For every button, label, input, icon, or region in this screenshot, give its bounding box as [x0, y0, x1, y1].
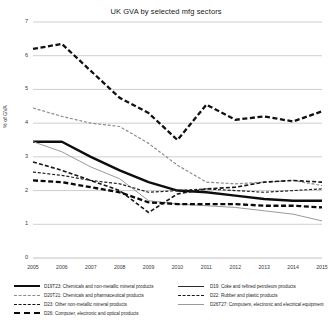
- y-tick-label: 7: [14, 18, 28, 24]
- series-line-d19: [33, 44, 322, 140]
- y-tick-label: 0: [14, 254, 28, 260]
- legend-label: D19: Coke and refined petroleum products: [210, 282, 296, 291]
- x-tick-label: 2008: [105, 264, 135, 270]
- legend-label: D20T21: Chemicals and pharmaceutical pro…: [44, 291, 144, 300]
- legend-item[interactable]: D19: Coke and refined petroleum products: [178, 282, 332, 291]
- y-tick-label: 1: [14, 220, 28, 226]
- y-tick-label: 4: [14, 119, 28, 125]
- legend-label: D23: Other non-metallic mineral products: [44, 300, 127, 309]
- series-lines: [33, 44, 322, 221]
- legend-label: D26T27: Computers, electronic and electr…: [210, 300, 324, 309]
- y-tick-label: 5: [14, 85, 28, 91]
- x-tick-label: 2015: [307, 264, 332, 270]
- x-tick-label: 2011: [191, 264, 221, 270]
- legend-item[interactable]: D26: Computer, electronic and optical pr…: [14, 309, 174, 318]
- series-line-d19t23: [33, 142, 322, 201]
- legend-swatch-icon: [178, 304, 204, 309]
- legend-item[interactable]: D23: Other non-metallic mineral products: [14, 300, 174, 309]
- x-tick-label: 2007: [76, 264, 106, 270]
- x-tick-label: 2012: [220, 264, 250, 270]
- legend-item[interactable]: D22: Rubber and plastic products: [178, 291, 332, 300]
- legend-item[interactable]: D19T23: Chemicals and non-metallic miner…: [14, 282, 174, 291]
- legend-label: D19T23: Chemicals and non-metallic miner…: [44, 282, 154, 291]
- x-tick-label: 2006: [47, 264, 77, 270]
- series-line-d20t21: [33, 108, 322, 186]
- x-tick-label: 2009: [134, 264, 164, 270]
- chart-legend: D19T23: Chemicals and non-metallic miner…: [0, 282, 332, 328]
- legend-item[interactable]: D26T27: Computers, electronic and electr…: [178, 300, 332, 309]
- legend-column-right: D19: Coke and refined petroleum products…: [178, 282, 332, 309]
- y-tick-label: 2: [14, 187, 28, 193]
- legend-column-left: D19T23: Chemicals and non-metallic miner…: [14, 282, 174, 318]
- legend-swatch-icon: [14, 312, 40, 318]
- y-tick-label: 3: [14, 153, 28, 159]
- x-tick-label: 2005: [18, 264, 48, 270]
- x-tick-label: 2014: [278, 264, 308, 270]
- chart-container: UK GVA by selected mfg sectors % of GVA …: [0, 0, 332, 333]
- legend-label: D26: Computer, electronic and optical pr…: [44, 309, 139, 318]
- legend-item[interactable]: D20T21: Chemicals and pharmaceutical pro…: [14, 291, 174, 300]
- y-tick-label: 6: [14, 52, 28, 58]
- x-tick-label: 2013: [249, 264, 279, 270]
- legend-label: D22: Rubber and plastic products: [210, 291, 278, 300]
- x-tick-label: 2010: [163, 264, 193, 270]
